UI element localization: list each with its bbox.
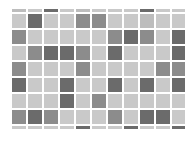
grid-tile [60, 110, 74, 124]
grid-tile [92, 30, 106, 44]
grid-tile [28, 62, 42, 76]
grid-tile [124, 30, 138, 44]
grid-tile [108, 14, 122, 28]
grid-tile [156, 94, 170, 108]
grid-tile [156, 46, 170, 60]
grid-tile [156, 30, 170, 44]
grid-tile [60, 78, 74, 92]
grid-tile [76, 30, 90, 44]
grid-tile [60, 46, 74, 60]
grid-tile [44, 62, 58, 76]
grid-tile [76, 110, 90, 124]
grid-tile [108, 78, 122, 92]
grid-tile [60, 9, 74, 12]
grid-tile [28, 126, 42, 129]
grid-tile [124, 9, 138, 12]
grid-tile [92, 14, 106, 28]
grid-tile [172, 94, 185, 108]
grid-tile [44, 94, 58, 108]
grid-tile [92, 110, 106, 124]
grid-tile [28, 9, 42, 12]
grid-tile [108, 126, 122, 129]
grid-tile [92, 94, 106, 108]
grid-tile [12, 126, 26, 129]
grid-tile [124, 46, 138, 60]
grid-tile [76, 126, 90, 129]
grid-tile [156, 9, 170, 12]
grid-tile [124, 78, 138, 92]
grid-tile [156, 110, 170, 124]
grid-tile [60, 62, 74, 76]
grid-tile [28, 46, 42, 60]
grid-tile [92, 78, 106, 92]
grid-tile [12, 30, 26, 44]
grid-tile [156, 78, 170, 92]
grid-tile [108, 110, 122, 124]
grid-tile [12, 46, 26, 60]
grid-tile [140, 46, 154, 60]
grid-tile [60, 126, 74, 129]
grid-tile [108, 62, 122, 76]
grid-tile [140, 9, 154, 12]
grid-tile [108, 94, 122, 108]
grid-tile [108, 30, 122, 44]
grid-tile [44, 46, 58, 60]
grid-tile [44, 14, 58, 28]
grid-tile [140, 126, 154, 129]
grid-tile [156, 14, 170, 28]
grid-tile [140, 94, 154, 108]
grid-tile [124, 110, 138, 124]
grid-tile [140, 62, 154, 76]
grid-tile [108, 46, 122, 60]
grid-tile [12, 14, 26, 28]
grid-tile [124, 126, 138, 129]
grid-tile [28, 110, 42, 124]
grid-tile [172, 110, 185, 124]
grid-tile [60, 30, 74, 44]
grid-tile [76, 9, 90, 12]
grid-tile [28, 94, 42, 108]
grid-tile [172, 9, 185, 12]
grid-tile [44, 78, 58, 92]
grid-tile [44, 110, 58, 124]
grid-tile [76, 62, 90, 76]
grid-tile [124, 62, 138, 76]
grid-tile [156, 62, 170, 76]
grid-tile [60, 14, 74, 28]
grid-tile [124, 14, 138, 28]
grid-tile [76, 78, 90, 92]
grid-tile [172, 62, 185, 76]
grid-tile [172, 30, 185, 44]
grid-tile [28, 78, 42, 92]
grid-tile [172, 126, 185, 129]
grid-tile [44, 30, 58, 44]
grid-tile [92, 9, 106, 12]
grid-tile [12, 62, 26, 76]
grid-tile [172, 78, 185, 92]
grid-tile [140, 78, 154, 92]
grid-tile [12, 9, 26, 12]
grid-tile [140, 30, 154, 44]
grid-tile [92, 62, 106, 76]
grid-tile [44, 126, 58, 129]
tile-grid-canvas [0, 0, 185, 144]
grid-tile [124, 94, 138, 108]
tile-grid [12, 9, 185, 129]
grid-tile [92, 126, 106, 129]
grid-tile [76, 14, 90, 28]
grid-tile [28, 14, 42, 28]
grid-tile [60, 94, 74, 108]
grid-tile [12, 110, 26, 124]
grid-tile [76, 94, 90, 108]
grid-tile [108, 9, 122, 12]
grid-tile [140, 110, 154, 124]
grid-tile [44, 9, 58, 12]
grid-tile [156, 126, 170, 129]
grid-tile [140, 14, 154, 28]
grid-tile [172, 46, 185, 60]
grid-tile [92, 46, 106, 60]
grid-tile [12, 78, 26, 92]
grid-tile [28, 30, 42, 44]
grid-tile [172, 14, 185, 28]
grid-tile [12, 94, 26, 108]
